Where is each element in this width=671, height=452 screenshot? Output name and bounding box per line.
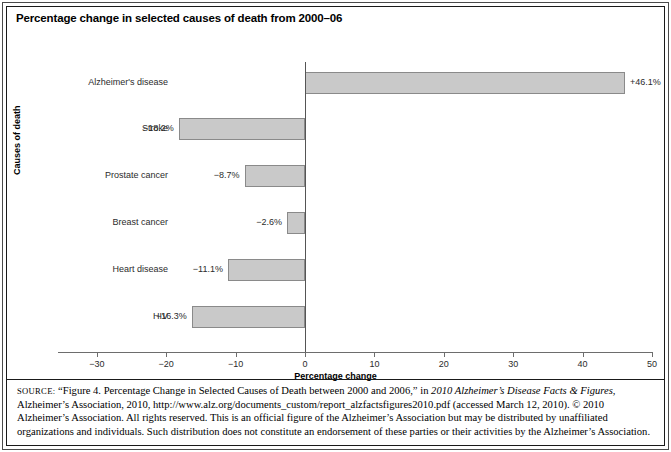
source-label: SOURCE: bbox=[17, 386, 55, 396]
source-divider bbox=[7, 379, 664, 380]
x-axis-tick-label: −10 bbox=[216, 359, 256, 369]
x-axis-tick bbox=[652, 352, 653, 357]
zero-baseline bbox=[305, 62, 306, 352]
x-axis-tick-label: 0 bbox=[285, 359, 325, 369]
category-label: Stroke bbox=[142, 123, 168, 133]
bar bbox=[305, 72, 625, 94]
category-label: Heart disease bbox=[112, 264, 168, 274]
x-axis-tick-label: −20 bbox=[146, 359, 186, 369]
bar bbox=[179, 118, 305, 140]
source-text-a: “Figure 4. Percentage Change in Selected… bbox=[55, 385, 431, 396]
x-axis-tick-label: 50 bbox=[632, 359, 671, 369]
source-note: SOURCE: “Figure 4. Percentage Change in … bbox=[17, 384, 654, 438]
x-axis-tick-label: 40 bbox=[563, 359, 603, 369]
bar-value-label: +46.1% bbox=[630, 77, 661, 87]
bar bbox=[192, 306, 305, 328]
x-axis-tick-label: 20 bbox=[424, 359, 464, 369]
x-axis-tick-label: −30 bbox=[77, 359, 117, 369]
y-axis-title: Causes of death bbox=[12, 105, 22, 175]
bar bbox=[287, 212, 305, 234]
figure-container: Percentage change in selected causes of … bbox=[0, 0, 671, 452]
category-label: Prostate cancer bbox=[105, 170, 168, 180]
bar-value-label: −11.1% bbox=[0, 264, 223, 274]
category-label: Breast cancer bbox=[112, 217, 168, 227]
x-axis-line bbox=[58, 352, 652, 353]
x-axis-tick-label: 10 bbox=[354, 359, 394, 369]
category-label: HIV bbox=[153, 311, 168, 321]
source-title-italic: 2010 Alzheimer’s Disease Facts & Figures bbox=[431, 385, 613, 396]
category-label: Alzheimer's disease bbox=[88, 77, 168, 87]
x-axis-tick-label: 30 bbox=[493, 359, 533, 369]
bar bbox=[228, 259, 305, 281]
bar bbox=[245, 165, 305, 187]
